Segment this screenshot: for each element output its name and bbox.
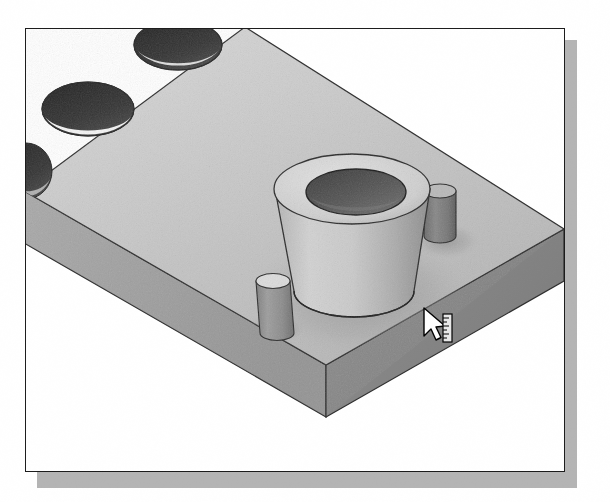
scan-grain-overlay: [26, 29, 564, 417]
bottom-shadow-bar: [37, 472, 577, 488]
cad-viewport[interactable]: [25, 28, 565, 472]
screenshot-root: [0, 0, 610, 502]
isometric-model-canvas: [26, 29, 564, 471]
